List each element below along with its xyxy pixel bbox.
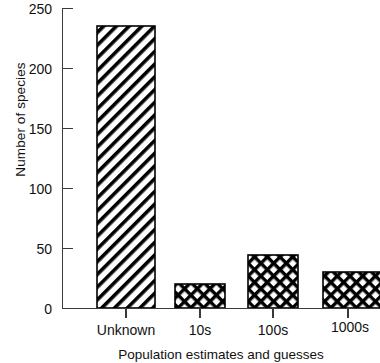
bar-chart: Number of species 250 200 150 100 50 0 <box>0 0 380 363</box>
x-axis-ticks <box>126 309 348 319</box>
bar-100s <box>248 255 298 308</box>
plot-area <box>0 0 380 363</box>
bar-unknown <box>97 26 155 308</box>
x-tick-label-100s: 100s <box>258 323 288 337</box>
y-axis-ticks <box>63 9 74 249</box>
bars-group <box>97 26 380 308</box>
x-tick-label-10s: 10s <box>189 323 212 337</box>
bar-1000s <box>323 272 380 308</box>
x-axis-title: Population estimates and guesses <box>62 347 380 362</box>
x-tick-label-unknown: Unknown <box>97 323 155 337</box>
bar-10s <box>175 284 225 308</box>
x-tick-label-1000s: 1000s <box>331 320 369 334</box>
